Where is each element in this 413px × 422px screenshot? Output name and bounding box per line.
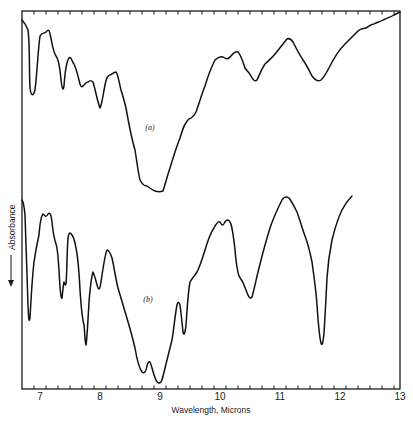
y-axis-label-group: Absorbance (7, 204, 17, 250)
x-tick-label: 8 (97, 391, 103, 402)
x-tick-label: 11 (275, 391, 286, 402)
spectrum-curve-b (22, 196, 352, 383)
x-tick-label: 9 (157, 391, 163, 402)
x-tick-label: 12 (334, 391, 346, 402)
x-tick-label: 7 (37, 391, 43, 402)
series-label-b: (b) (143, 295, 153, 304)
down-arrow-icon (8, 255, 14, 287)
series-label-a: (a) (145, 123, 155, 132)
x-axis-label: Wavelength, Microns (171, 405, 250, 415)
y-axis-label: Absorbance (7, 204, 17, 250)
x-tick-labels: 78910111213 (37, 391, 406, 402)
spectrum-curve-a (22, 12, 400, 192)
x-tick-label: 13 (394, 391, 406, 402)
ir-spectrum-chart: 78910111213 (a) (b) Wavelength, Microns … (0, 0, 413, 422)
x-tick-label: 10 (214, 391, 226, 402)
